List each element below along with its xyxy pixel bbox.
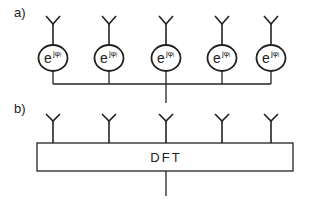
phase-shifter-array: ejφᵢejφᵢejφᵢejφᵢejφᵢ — [39, 16, 286, 84]
phase-exponent: jφᵢ — [221, 49, 230, 58]
antenna-icon — [46, 114, 60, 121]
antenna-icon — [264, 16, 278, 24]
antenna-a-3 — [159, 16, 173, 45]
antenna-a-1 — [46, 16, 60, 45]
phase-term: e — [157, 50, 165, 66]
antenna-b-2 — [102, 114, 116, 143]
dft-label: DFT — [150, 150, 181, 165]
antenna-icon — [102, 114, 116, 121]
antenna-b-3 — [159, 114, 173, 143]
antenna-icon — [46, 16, 60, 24]
antenna-array-b — [46, 114, 278, 143]
antenna-a-5 — [264, 16, 278, 45]
phase-exponent: jφᵢ — [165, 49, 174, 58]
antenna-icon — [264, 114, 278, 121]
phase-term: e — [100, 50, 108, 66]
panel-b-label: b) — [14, 101, 26, 116]
phase-shifter-3: ejφᵢ — [152, 45, 181, 84]
antenna-b-5 — [264, 114, 278, 143]
antenna-icon — [102, 16, 116, 24]
phase-exponent: jφᵢ — [270, 49, 279, 58]
beamforming-diagram: a) ejφᵢejφᵢejφᵢejφᵢejφᵢ b) DFT — [0, 0, 312, 207]
phase-shifter-4: ejφᵢ — [208, 45, 237, 84]
panel-b: b) DFT — [14, 101, 293, 196]
antenna-b-1 — [46, 114, 60, 143]
phase-term: e — [213, 50, 221, 66]
phase-term: e — [262, 50, 270, 66]
phase-shifter-2: ejφᵢ — [95, 45, 124, 84]
antenna-icon — [159, 16, 173, 24]
phase-term: e — [44, 50, 52, 66]
panel-a: a) ejφᵢejφᵢejφᵢejφᵢejφᵢ — [14, 5, 286, 103]
antenna-b-4 — [215, 114, 229, 143]
antenna-icon — [215, 114, 229, 121]
antenna-a-4 — [215, 16, 229, 45]
phase-exponent: jφᵢ — [52, 49, 61, 58]
antenna-icon — [159, 114, 173, 121]
antenna-a-2 — [102, 16, 116, 45]
phase-shifter-1: ejφᵢ — [39, 45, 68, 84]
antenna-icon — [215, 16, 229, 24]
panel-a-label: a) — [14, 5, 26, 20]
phase-exponent: jφᵢ — [108, 49, 117, 58]
phase-shifter-5: ejφᵢ — [257, 45, 286, 84]
